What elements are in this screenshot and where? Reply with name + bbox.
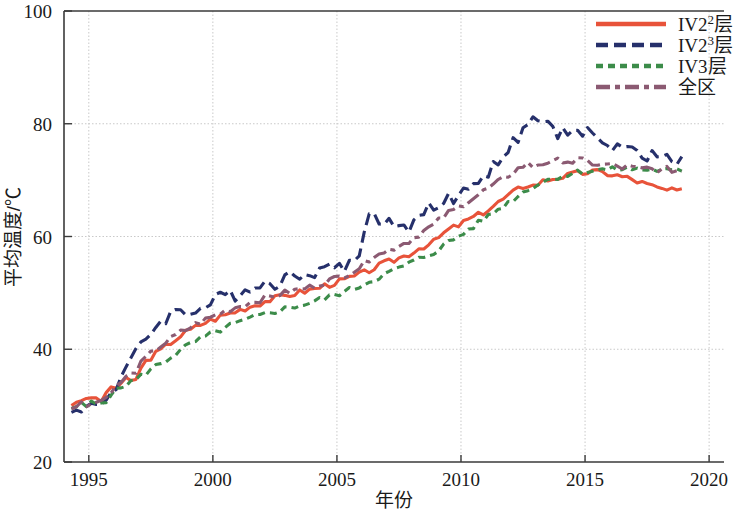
- y-tick-label: 100: [24, 1, 53, 22]
- chart-figure: 19952000200520102015202020406080100 IV22…: [0, 0, 737, 515]
- line-chart: 19952000200520102015202020406080100 IV22…: [0, 0, 737, 515]
- x-tick-label: 2000: [194, 469, 232, 490]
- y-tick-label: 40: [33, 339, 52, 360]
- chart-background: [0, 0, 737, 515]
- x-tick-label: 1995: [70, 469, 108, 490]
- legend-label: IV3层: [678, 56, 727, 77]
- legend-label: 全区: [678, 77, 716, 98]
- legend-label: IV22层: [678, 12, 733, 35]
- x-tick-label: 2010: [442, 469, 480, 490]
- y-axis-title: 平均温度/℃: [3, 187, 24, 287]
- x-tick-label: 2015: [566, 469, 604, 490]
- y-tick-label: 20: [33, 452, 52, 473]
- x-tick-label: 2005: [318, 469, 356, 490]
- y-tick-label: 60: [33, 227, 52, 248]
- y-tick-label: 80: [33, 114, 52, 135]
- x-tick-label: 2020: [690, 469, 728, 490]
- x-axis-title: 年份: [375, 490, 413, 511]
- legend-label: IV23层: [678, 33, 733, 56]
